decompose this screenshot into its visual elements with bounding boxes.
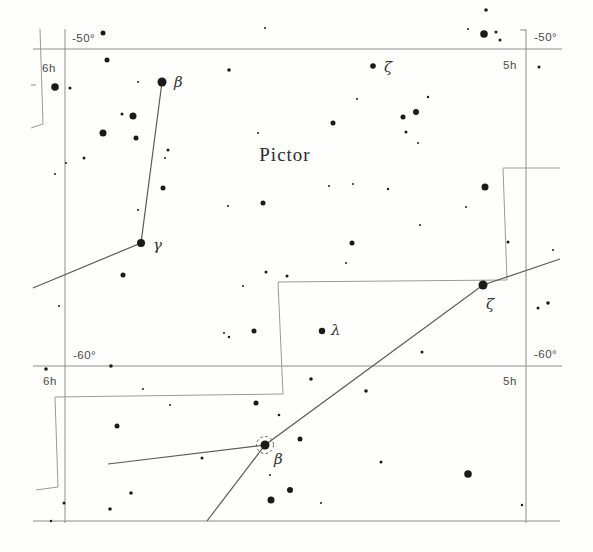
star-dot bbox=[464, 470, 472, 478]
named-star-dot bbox=[261, 441, 270, 450]
star-dot bbox=[54, 173, 56, 175]
named-star-dot bbox=[479, 281, 488, 290]
star-dot bbox=[364, 389, 368, 393]
star-dot bbox=[137, 81, 139, 83]
star-dot bbox=[109, 364, 113, 368]
star-dot bbox=[298, 437, 303, 442]
named-star-dot bbox=[137, 239, 145, 247]
star-dot bbox=[465, 206, 467, 208]
star-dot bbox=[546, 301, 550, 305]
star-dot bbox=[413, 109, 419, 115]
star-dot bbox=[499, 39, 502, 42]
axis-tick-label: -50° bbox=[72, 32, 95, 44]
star-dot bbox=[130, 113, 137, 120]
star-dot bbox=[345, 262, 347, 264]
star-greek-label: ζ bbox=[384, 58, 393, 76]
star-dot bbox=[169, 404, 171, 406]
axis-tick-label: -60° bbox=[534, 348, 557, 360]
star-dot bbox=[265, 271, 268, 274]
star-dot bbox=[419, 224, 421, 226]
star-dot bbox=[201, 457, 204, 460]
axis-tick-label: -50° bbox=[534, 31, 557, 43]
star-dot bbox=[257, 132, 259, 134]
star-dot bbox=[137, 209, 139, 211]
star-dot bbox=[261, 201, 266, 206]
star-chart-page: βγζζλβ-50°-50°6h5h-60°-60°6h5hPictor bbox=[0, 0, 593, 552]
star-greek-label: λ bbox=[330, 321, 341, 339]
chart-background bbox=[0, 0, 593, 552]
constellation-name: Pictor bbox=[259, 144, 310, 165]
star-dot bbox=[161, 186, 166, 191]
star-dot bbox=[227, 205, 229, 207]
star-greek-label: β bbox=[273, 450, 283, 468]
axis-tick-label: 5h bbox=[503, 375, 517, 387]
axis-tick-label: 6h bbox=[42, 62, 56, 74]
star-dot bbox=[108, 507, 112, 511]
star-dot bbox=[521, 504, 523, 506]
star-dot bbox=[44, 367, 48, 371]
star-dot bbox=[164, 157, 166, 159]
star-dot bbox=[115, 424, 120, 429]
star-dot bbox=[405, 131, 408, 134]
star-dot bbox=[142, 388, 144, 390]
star-dot bbox=[387, 188, 389, 190]
star-dot bbox=[480, 30, 488, 38]
star-dot bbox=[105, 58, 110, 63]
star-dot bbox=[482, 184, 489, 191]
star-dot bbox=[495, 31, 498, 34]
axis-tick-label: -60° bbox=[73, 349, 96, 361]
named-star-dot bbox=[319, 328, 325, 334]
star-dot bbox=[484, 8, 488, 12]
star-dot bbox=[269, 474, 271, 476]
star-dot bbox=[417, 142, 419, 144]
star-dot bbox=[507, 241, 510, 244]
star-dot bbox=[350, 241, 355, 246]
named-star-dot bbox=[158, 78, 167, 87]
star-dot bbox=[286, 275, 289, 278]
star-dot bbox=[51, 83, 59, 91]
star-greek-label: β bbox=[173, 73, 183, 91]
star-dot bbox=[121, 113, 124, 116]
star-dot bbox=[537, 307, 540, 310]
star-dot bbox=[320, 502, 322, 504]
star-dot bbox=[69, 87, 72, 90]
star-dot bbox=[287, 487, 293, 493]
star-dot bbox=[242, 285, 244, 287]
star-dot bbox=[467, 28, 469, 30]
star-dot bbox=[83, 157, 86, 160]
star-dot bbox=[63, 502, 66, 505]
axis-tick-label: 5h bbox=[503, 59, 517, 71]
star-dot bbox=[58, 305, 60, 307]
axis-tick-label: 6h bbox=[43, 375, 57, 387]
star-dot bbox=[50, 520, 52, 522]
star-dot bbox=[227, 68, 231, 72]
star-dot bbox=[167, 149, 170, 152]
star-dot bbox=[552, 249, 554, 251]
star-dot bbox=[252, 329, 257, 334]
star-dot bbox=[380, 461, 383, 464]
star-dot bbox=[101, 31, 106, 36]
star-dot bbox=[427, 96, 429, 98]
star-dot bbox=[121, 273, 126, 278]
star-dot bbox=[65, 162, 67, 164]
star-dot bbox=[100, 130, 107, 137]
star-dot bbox=[331, 121, 336, 126]
star-greek-label: ζ bbox=[486, 295, 495, 313]
star-dot bbox=[309, 377, 313, 381]
named-star-dot bbox=[370, 63, 376, 69]
star-dot bbox=[254, 401, 259, 406]
star-dot bbox=[352, 183, 354, 185]
star-dot bbox=[278, 414, 281, 417]
star-dot bbox=[538, 66, 541, 69]
star-dot bbox=[421, 351, 424, 354]
star-dot bbox=[228, 336, 230, 338]
star-dot bbox=[134, 136, 139, 141]
star-dot bbox=[223, 332, 225, 334]
star-dot bbox=[268, 497, 275, 504]
star-dot bbox=[356, 98, 358, 100]
pictor-constellation-chart: βγζζλβ-50°-50°6h5h-60°-60°6h5hPictor bbox=[0, 0, 593, 552]
star-greek-label: γ bbox=[153, 236, 162, 254]
star-dot bbox=[328, 185, 330, 187]
star-dot bbox=[129, 491, 133, 495]
star-dot bbox=[401, 115, 406, 120]
